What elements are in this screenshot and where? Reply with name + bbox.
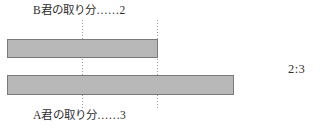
dotted-guide-line-unit-2 [157,20,158,109]
ratio-bar-figure: B君の取り分……2 A君の取り分……3 2:3 [0,0,320,129]
bar-a-share [7,75,234,95]
ratio-annotation: 2:3 [288,62,305,76]
bar-label-b: B君の取り分……2 [33,4,125,17]
bar-label-a: A君の取り分……3 [33,109,126,122]
bar-b-share [7,39,158,58]
dotted-guide-line-unit-1 [82,20,83,109]
